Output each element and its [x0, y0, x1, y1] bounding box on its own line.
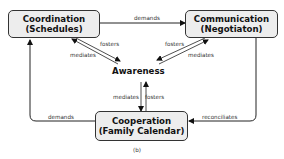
edge-label-reconciliates: reconciliates	[202, 114, 237, 120]
node-cooperation-title: Cooperation	[112, 116, 171, 126]
node-communication-title: Communication	[194, 14, 269, 24]
edge-label-coop-fosters: fosters	[145, 94, 164, 100]
node-awareness: Awareness	[112, 66, 165, 76]
node-cooperation-subtitle: (Family Calendar)	[99, 126, 185, 136]
edge-label-coord-fosters: fosters	[100, 41, 119, 47]
node-coordination-title: Coordination	[23, 14, 85, 24]
node-cooperation: Cooperation (Family Calendar)	[95, 111, 188, 141]
node-coordination-subtitle: (Schedules)	[25, 24, 82, 34]
edge-label-coord-mediates: mediates	[70, 52, 96, 58]
diagram: Coordination (Schedules) Communication (…	[0, 0, 284, 159]
figure-caption: (b)	[133, 147, 141, 153]
edge-label-demands-top: demands	[134, 15, 160, 21]
node-communication-subtitle: (Negotiaton)	[201, 24, 263, 34]
edge-label-coop-mediates: mediates	[113, 94, 139, 100]
node-coordination: Coordination (Schedules)	[8, 10, 100, 38]
node-communication: Communication (Negotiaton)	[185, 10, 278, 38]
edge-label-comm-mediates: mediates	[188, 52, 214, 58]
edge-label-demands-bottom: demands	[48, 114, 74, 120]
edge-label-comm-fosters: fosters	[165, 41, 184, 47]
